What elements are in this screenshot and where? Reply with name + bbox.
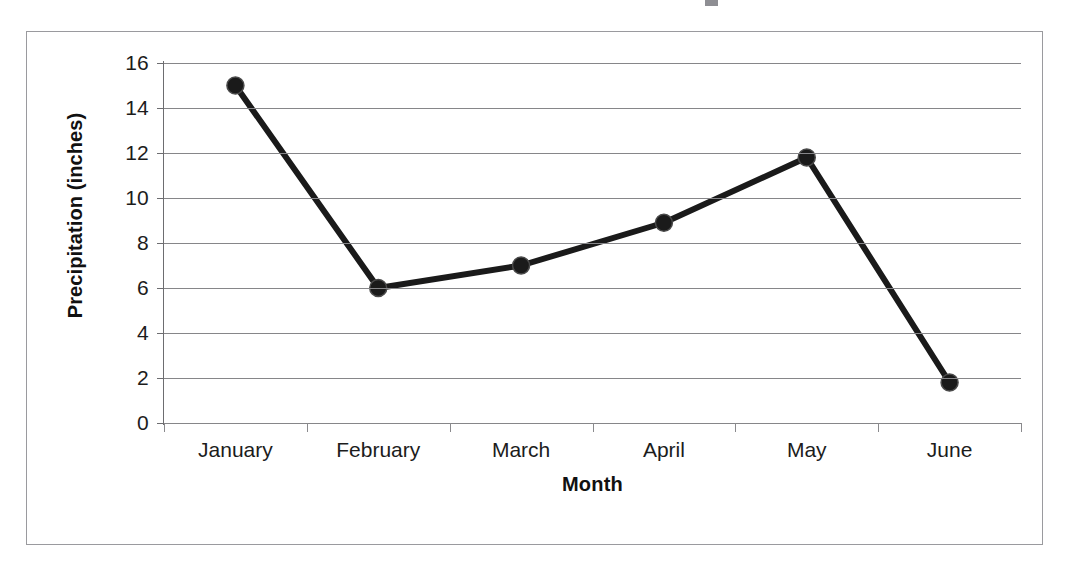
x-tick-label: March [492,438,550,462]
y-tick-label: 0 [99,412,149,433]
x-tick-label: April [643,438,685,462]
x-tick-mark [593,423,594,432]
gridline [164,108,1021,109]
plot-area [164,63,1021,423]
scan-artifact [380,0,800,7]
gridline [164,333,1021,334]
y-tick-label: 8 [99,232,149,253]
data-point-marker [513,257,530,274]
gridline [164,63,1021,64]
gridline [164,198,1021,199]
y-tick-mark [157,288,164,289]
y-tick-label: 2 [99,367,149,388]
y-tick-label: 6 [99,277,149,298]
y-tick-mark [157,333,164,334]
y-tick-mark [157,243,164,244]
y-tick-label: 10 [99,187,149,208]
x-tick-mark [878,423,879,432]
x-tick-label: January [198,438,273,462]
x-tick-label: June [927,438,973,462]
data-point-marker [227,77,244,94]
data-point-marker [798,149,815,166]
y-tick-mark [157,108,164,109]
x-tick-mark [307,423,308,432]
gridline [164,378,1021,379]
y-axis-title: Precipitation (inches) [64,71,87,361]
y-tick-mark [157,378,164,379]
x-tick-mark [164,423,165,432]
y-tick-mark [157,423,164,424]
gridline [164,288,1021,289]
x-tick-label: February [336,438,420,462]
y-tick-label: 4 [99,322,149,343]
y-tick-label: 16 [99,52,149,73]
x-tick-mark [735,423,736,432]
chart-frame: Precipitation (inches) 1614121086420 Jan… [26,31,1043,545]
x-tick-mark [450,423,451,432]
x-axis-tick-labels: JanuaryFebruaryMarchAprilMayJune [164,438,1021,472]
x-tick-label: May [787,438,827,462]
y-tick-mark [157,153,164,154]
x-axis-title: Month [164,473,1021,496]
y-tick-label: 14 [99,97,149,118]
gridline [164,153,1021,154]
data-point-marker [655,214,672,231]
scanned-page: Precipitation (inches) 1614121086420 Jan… [0,0,1065,574]
series-line [235,86,949,383]
y-axis-tick-labels: 1614121086420 [99,63,149,423]
x-tick-mark [1021,423,1022,432]
data-point-marker [941,374,958,391]
y-tick-mark [157,63,164,64]
gridline [164,243,1021,244]
y-tick-mark [157,198,164,199]
y-tick-label: 12 [99,142,149,163]
